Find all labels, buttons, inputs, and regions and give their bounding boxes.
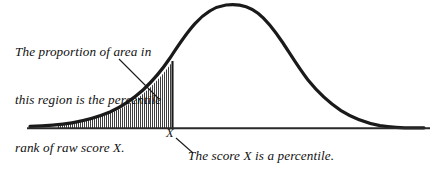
percentile-normal-curve-figure: The proportion of area in this region is… xyxy=(0,0,439,174)
bottom-annotation: The score X is a percentile. xyxy=(188,148,334,164)
top-annotation-line-1: The proportion of area in xyxy=(15,44,161,60)
top-annotation: The proportion of area in this region is… xyxy=(15,12,161,174)
top-annotation-line-3: rank of raw score X. xyxy=(15,140,161,156)
top-annotation-line-2: this region is the percentile xyxy=(15,92,161,108)
x-axis-tick-label: X xyxy=(166,126,174,141)
